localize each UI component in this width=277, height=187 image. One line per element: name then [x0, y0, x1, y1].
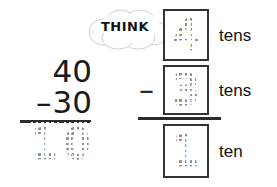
answer-digit-ones: 0	[65, 124, 90, 164]
place-value-row: – 3 tens	[130, 65, 277, 115]
place-value-row: 1 ten	[130, 124, 277, 178]
minuend-value: 40	[53, 56, 92, 87]
traced-digit: 3	[173, 70, 198, 110]
minus-sign: –	[130, 75, 163, 105]
place-value-row: 4 tens	[130, 9, 277, 61]
answer-blank[interactable]: 1 0	[32, 124, 90, 164]
digit-box-tens-2[interactable]: 3	[163, 65, 209, 115]
subtrahend-row: – 30	[36, 87, 92, 118]
traced-digit: 4	[173, 15, 198, 55]
place-value-column: 4 tens – 3 tens 1 ten	[130, 0, 277, 187]
unit-label: tens	[219, 27, 251, 44]
minuend-row: 40	[53, 56, 92, 87]
minus-sign: –	[36, 87, 52, 118]
column-subtraction: 40 – 30 1 0	[0, 52, 110, 182]
unit-label: tens	[219, 82, 251, 99]
answer-digit-tens: 1	[32, 124, 57, 164]
traced-digit: 1	[173, 131, 198, 171]
place-value-rule	[138, 117, 221, 120]
unit-label: ten	[219, 143, 243, 160]
digit-box-tens-1[interactable]: 4	[163, 9, 209, 61]
subtrahend-value: 30	[53, 87, 92, 118]
digit-box-answer[interactable]: 1	[163, 124, 209, 178]
worksheet-canvas: 40 – 30 1 0	[0, 0, 277, 187]
